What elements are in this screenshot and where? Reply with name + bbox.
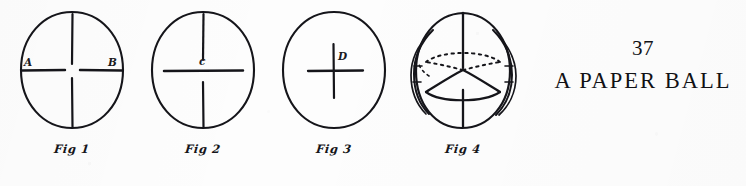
fig4-caption: Fig 4 bbox=[392, 142, 533, 156]
fig4-svg bbox=[393, 4, 533, 138]
fig2-horizontal-line bbox=[164, 71, 243, 72]
fig1-svg: A B bbox=[2, 4, 142, 138]
fig1-caption: Fig 1 bbox=[1, 142, 142, 156]
fig3-label-d: D bbox=[337, 50, 348, 62]
fig3-svg: D bbox=[264, 4, 404, 138]
fig1-label-b: B bbox=[107, 56, 117, 68]
fig2-label-c: c bbox=[199, 55, 206, 67]
fig3-cross-horizontal bbox=[308, 71, 363, 72]
fig4-seam-left bbox=[426, 70, 463, 92]
page-title: A PAPER BALL bbox=[540, 70, 746, 93]
figure-fig1: A B Fig 1 bbox=[2, 0, 142, 186]
fig1-label-a: A bbox=[23, 56, 32, 68]
figure-fig4: Fig 4 bbox=[393, 0, 533, 186]
fig1-drawing: A B bbox=[2, 4, 142, 138]
fig1-slit-right bbox=[80, 70, 122, 71]
fig1-slit-bottom bbox=[72, 78, 73, 127]
heading-block: 37 A PAPER BALL bbox=[540, 38, 746, 93]
illustration-page: A B Fig 1 c Fig 2 bbox=[0, 0, 746, 186]
fig4-hidden-seam-right bbox=[463, 62, 500, 70]
figure-fig3: D Fig 3 bbox=[264, 0, 404, 186]
fig2-svg: c bbox=[133, 4, 273, 138]
fig4-seam-right bbox=[463, 70, 500, 92]
fig3-caption: Fig 3 bbox=[263, 142, 404, 156]
fig1-slit-top bbox=[72, 14, 73, 64]
page-number: 37 bbox=[540, 38, 746, 59]
fig1-slit-left bbox=[22, 70, 65, 71]
fig2-drawing: c bbox=[133, 4, 273, 138]
figure-fig2: c Fig 2 bbox=[133, 0, 273, 186]
fig3-drawing: D bbox=[264, 4, 404, 138]
fig4-hidden-seam-left bbox=[426, 62, 463, 70]
fig2-slit-top bbox=[203, 14, 204, 60]
fig4-drawing bbox=[393, 4, 533, 138]
fig2-caption: Fig 2 bbox=[132, 142, 273, 156]
fig2-slit-bottom bbox=[203, 82, 204, 127]
